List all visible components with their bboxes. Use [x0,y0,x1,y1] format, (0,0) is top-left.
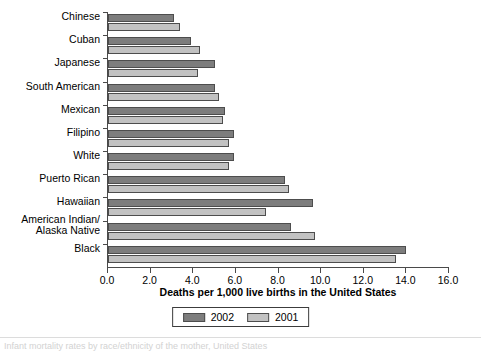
x-tick-label: 12.0 [353,274,373,286]
category-label: Hawaiian [57,196,100,208]
category-label: Chinese [61,11,100,23]
category-tick [103,82,108,83]
bar-2001 [108,23,180,31]
chart-plot-area: ChineseCubanJapaneseSouth AmericanMexica… [108,12,449,267]
bar-2001 [108,69,198,77]
page-divider [0,337,481,338]
x-tick-label: 16.0 [438,274,458,286]
x-tick-mark [235,268,236,273]
category-label: Filipino [67,127,100,139]
category-tick [103,221,108,222]
category-tick [103,197,108,198]
chart-row: Black [108,244,449,267]
category-tick [103,174,108,175]
figure-caption-text: Infant mortality rates by race/ethnicity… [0,340,481,352]
x-axis-title: Deaths per 1,000 live births in the Unit… [107,286,449,298]
x-tick-mark [405,268,406,273]
chart-row: Chinese [108,12,449,35]
chart-row: White [108,151,449,174]
category-label: South American [26,81,100,93]
x-tick-mark [320,268,321,273]
x-tick-label: 10.0 [310,274,330,286]
chart-row: Japanese [108,58,449,81]
x-tick-label: 0.0 [100,274,115,286]
chart-row: Mexican [108,105,449,128]
bar-2002 [108,60,215,68]
bar-2002 [108,130,234,138]
chart-row: Filipino [108,128,449,151]
category-tick [103,12,108,13]
bar-2002 [108,37,191,45]
x-tick-mark [107,268,108,273]
category-tick [103,244,108,245]
x-tick-mark [278,268,279,273]
legend-swatch-2001 [247,313,269,322]
legend-item-2001: 2001 [247,311,298,323]
x-tick-label: 4.0 [185,274,200,286]
x-tick-mark [192,268,193,273]
category-tick [103,105,108,106]
bar-2002 [108,223,291,231]
x-tick-mark [448,268,449,273]
x-tick-label: 6.0 [228,274,243,286]
bar-2001 [108,162,229,170]
category-label: White [73,150,100,162]
bar-2001 [108,116,223,124]
bar-2002 [108,246,406,254]
infant-mortality-bar-chart: ChineseCubanJapaneseSouth AmericanMexica… [0,0,481,336]
category-tick [103,128,108,129]
x-tick-mark [150,268,151,273]
x-tick-label: 2.0 [142,274,157,286]
chart-row: Puerto Rican [108,174,449,197]
bar-2001 [108,255,396,263]
category-label: Black [74,243,100,255]
category-tick [103,35,108,36]
bar-2001 [108,46,200,54]
legend-label-2001: 2001 [275,311,298,323]
chart-row: Hawaiian [108,197,449,220]
bar-2002 [108,84,215,92]
chart-row: American Indian/Alaska Native [108,221,449,244]
bar-2002 [108,107,225,115]
category-label: American Indian/Alaska Native [21,214,100,237]
figure-caption: Infant mortality rates by race/ethnicity… [0,340,481,354]
legend-item-2002: 2002 [183,311,234,323]
bar-2001 [108,208,266,216]
bar-2001 [108,93,219,101]
category-label: Japanese [54,57,100,69]
bar-2002 [108,153,234,161]
bar-2001 [108,185,289,193]
bar-2002 [108,199,313,207]
bar-2002 [108,14,174,22]
bar-2001 [108,139,229,147]
legend-swatch-2002 [183,313,205,322]
chart-legend: 2002 2001 [172,307,310,327]
bar-2002 [108,176,285,184]
chart-row: Cuban [108,35,449,58]
x-tick-label: 14.0 [395,274,415,286]
x-tick-label: 8.0 [270,274,285,286]
category-label: Mexican [61,104,100,116]
category-label: Cuban [69,34,100,46]
chart-row: South American [108,82,449,105]
legend-label-2002: 2002 [211,311,234,323]
category-tick [103,58,108,59]
category-label-line: Alaska Native [21,225,100,237]
category-tick [103,151,108,152]
bar-2001 [108,232,315,240]
category-label: Puerto Rican [39,173,100,185]
x-tick-mark [363,268,364,273]
